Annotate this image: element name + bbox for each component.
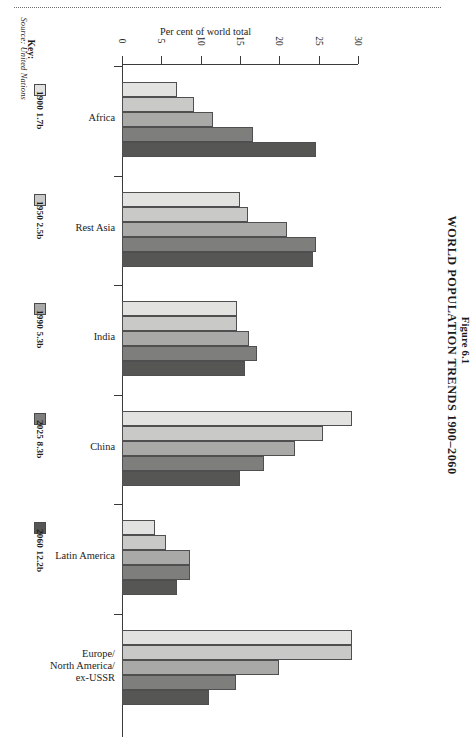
bar	[122, 535, 166, 550]
x-axis-tick	[161, 56, 162, 64]
x-axis-line	[122, 64, 358, 65]
bar	[122, 207, 248, 222]
bar	[122, 192, 240, 207]
bar	[122, 82, 177, 97]
bar	[122, 346, 257, 361]
category-label-line: Rest Asia	[0, 222, 115, 234]
bar	[122, 112, 213, 127]
page-top-rule	[14, 7, 441, 8]
bar	[122, 660, 279, 675]
category-label: China	[0, 441, 115, 453]
x-axis-tick	[279, 56, 280, 64]
category-label: Latin America	[0, 550, 115, 562]
category-axis-tick	[114, 614, 122, 615]
category-axis-tick	[114, 176, 122, 177]
category-label: Rest Asia	[0, 222, 115, 234]
legend-label: 2025 8.3b	[35, 420, 45, 520]
x-axis-tick	[201, 56, 202, 64]
x-axis-tick-label: 0	[117, 28, 127, 54]
x-axis-tick-label: 20	[274, 28, 284, 54]
bar	[122, 520, 155, 535]
bar	[122, 471, 240, 486]
bar	[122, 456, 264, 471]
source-note: Source: United Nations	[19, 18, 28, 148]
x-axis-tick	[122, 56, 123, 64]
bar	[122, 580, 177, 595]
bar	[122, 426, 323, 441]
category-label-line: Europe/	[0, 648, 115, 660]
x-axis-tick	[240, 56, 241, 64]
legend-label: 1900 1.7b	[35, 91, 45, 191]
x-axis-tick-label: 25	[314, 28, 324, 54]
category-label-line: ex-USSR	[0, 672, 115, 684]
bar	[122, 252, 313, 267]
category-label-line: China	[0, 441, 115, 453]
x-axis-tick-label: 10	[196, 28, 206, 54]
bar	[122, 301, 237, 316]
category-label: Africa	[0, 112, 115, 124]
x-axis-tick-label: 5	[156, 28, 166, 54]
legend-title: Key:	[26, 40, 37, 82]
x-axis-tick	[319, 56, 320, 64]
figure-number: Figure 6.1	[458, 216, 471, 466]
category-label-line: India	[0, 331, 115, 343]
bar	[122, 675, 236, 690]
bar	[122, 237, 316, 252]
figure-title: WORLD POPULATION TRENDS 1900–2060	[442, 216, 458, 466]
category-axis-tick	[114, 395, 122, 396]
category-label-line: Africa	[0, 112, 115, 124]
category-axis-tick	[114, 66, 122, 67]
category-axis-tick	[114, 504, 122, 505]
bar	[122, 690, 209, 705]
bar	[122, 441, 295, 456]
legend-label: 1990 5.3b	[35, 310, 45, 410]
category-label-line: North America/	[0, 660, 115, 672]
bar	[122, 97, 194, 112]
x-axis-tick-label: 15	[235, 28, 245, 54]
bar	[122, 550, 190, 565]
category-label: Europe/North America/ex-USSR	[0, 648, 115, 685]
bar	[122, 361, 245, 376]
bar	[122, 565, 190, 580]
x-axis-tick-label: 30	[353, 28, 363, 54]
category-label-line: Latin America	[0, 550, 115, 562]
bar	[122, 630, 352, 645]
category-axis-tick	[114, 285, 122, 286]
category-label: India	[0, 331, 115, 343]
bar	[122, 142, 316, 157]
bar	[122, 316, 237, 331]
bar	[122, 645, 352, 660]
bar	[122, 331, 249, 346]
x-axis-tick	[358, 56, 359, 64]
bar	[122, 127, 253, 142]
bar	[122, 411, 352, 426]
bar	[122, 222, 287, 237]
legend-label: 2060 12.2b	[35, 529, 45, 629]
figure-title-block: Figure 6.1 WORLD POPULATION TRENDS 1900–…	[442, 216, 471, 466]
legend-label: 1950 2.5b	[35, 201, 45, 301]
